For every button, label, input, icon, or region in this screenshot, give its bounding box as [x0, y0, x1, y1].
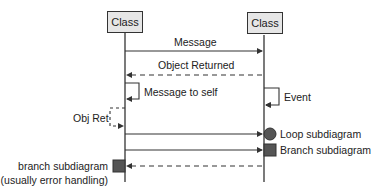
- object-returned-label: Object Returned: [158, 59, 234, 71]
- loop-subdiagram-label: Loop subdiagram: [280, 128, 361, 140]
- obj-ret-arrow: [110, 108, 125, 126]
- participant-right: Class: [247, 12, 283, 34]
- error-branch-label-line1: branch subdiagram: [18, 160, 108, 172]
- sequence-diagram: Class Class Message Object Returned Mess…: [0, 0, 375, 195]
- event-arrow: [264, 88, 279, 105]
- error-branch-label-line2: (usually error handling): [1, 174, 108, 186]
- loop-circle-icon: [264, 128, 276, 140]
- error-branch-square-icon: [113, 160, 125, 172]
- branch-subdiagram-label: Branch subdiagram: [280, 144, 371, 156]
- self-message-arrow: [125, 83, 139, 99]
- participant-left: Class: [107, 11, 143, 33]
- event-label: Event: [284, 91, 311, 103]
- participant-left-label: Class: [111, 16, 139, 28]
- participant-right-label: Class: [251, 17, 279, 29]
- message-to-self-label: Message to self: [144, 86, 218, 98]
- branch-square-icon: [264, 144, 276, 156]
- obj-ret-label: Obj Ret: [73, 112, 109, 124]
- message-label: Message: [174, 36, 217, 48]
